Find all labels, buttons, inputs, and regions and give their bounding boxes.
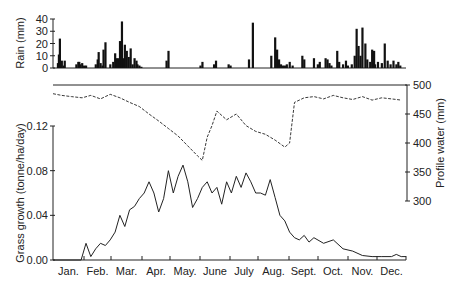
rain-bar [104,42,106,68]
rain-bar [95,64,97,68]
rain-panel: 010203040 [36,13,406,74]
rain-bar [167,51,169,68]
rain-bar [364,44,366,69]
rain-bar [345,61,347,68]
rain-tick-label: 0 [42,62,48,74]
rain-bar [276,50,278,68]
rain-bar [399,66,401,68]
rain-bar [317,64,319,68]
rain-bar [292,66,294,68]
rain-bar [59,39,61,68]
rain-bar [140,67,142,68]
rain-bar [354,56,356,68]
rain-bar [395,64,397,68]
rain-bar [381,63,383,68]
rain-bar [121,21,123,68]
rain-bar [357,46,359,68]
rain-bar [289,62,291,68]
rain-bar [270,56,272,68]
rain-bar [132,64,134,68]
rain-bar [109,64,111,68]
rain-bar [75,64,77,68]
rain-tick-label: 30 [36,25,48,37]
month-label: May. [173,265,196,277]
rain-bar [338,62,340,68]
month-label: Dec. [380,265,403,277]
grass-tick-label: 0.00 [27,254,48,266]
rain-bar [98,52,100,68]
rain-bar [336,51,338,68]
grass-tick-label: 0.12 [27,120,48,132]
rain-bar [369,62,371,68]
rain-bar [138,66,140,68]
rain-bar [165,61,167,68]
grass-growth-panel: 0.000.040.080.12 [27,120,406,266]
month-label: Sept. [291,265,317,277]
water-tick-label: 450 [413,108,431,120]
rain-bar [359,56,361,68]
rain-bar [83,66,85,68]
rain-bar [252,23,254,68]
month-label: Oct. [323,265,343,277]
rain-bar [215,61,217,68]
rain-bar [384,44,386,69]
water-tick-label: 500 [413,79,431,91]
rain-bar [115,58,117,68]
grass-tick-label: 0.04 [27,209,48,221]
rain-bar [374,64,376,68]
month-label: Mar. [116,265,137,277]
rain-bar [389,64,391,68]
month-label: Nov. [352,265,374,277]
rain-bar [342,64,344,68]
rain-bar [85,66,87,68]
rain-bar [126,51,128,68]
grass-tick-label: 0.08 [27,165,48,177]
rain-bar [319,62,321,68]
rain-bar [278,59,280,68]
rain-tick-label: 40 [36,13,48,25]
axes: Jan.Feb.Mar.Apr.May.JuneJulyAug.Sept.Oct… [58,256,406,277]
rain-bar [280,64,282,68]
month-label: Jan. [58,265,79,277]
rain-bar [356,29,358,68]
profile-water-line [53,94,401,161]
rain-bar [229,66,231,68]
rain-bar [301,56,303,68]
rain-bar [130,48,132,68]
rain-bar [102,50,104,68]
rain-bar [213,64,215,68]
rain-bar [284,66,286,68]
rain-bar [347,66,349,68]
rain-axis-label: Rain (mm) [14,17,26,68]
rain-bar [377,62,379,68]
rain-bar [119,41,121,68]
rain-bar [124,45,126,68]
water-axis-label: Profile water (mm) [434,98,446,188]
rain-bar [282,66,284,68]
rain-bar [112,62,114,68]
profile-water-panel: 300350400450500 [53,79,431,207]
grass-axis-label: Grass growth (tonne/ha/day) [14,123,26,262]
month-label: Apr. [146,265,166,277]
rain-bar [64,61,66,68]
rain-bar [328,63,330,68]
rain-bar [79,64,81,68]
rain-bar [199,66,201,68]
rain-bar [351,64,353,68]
rain-tick-label: 20 [36,38,48,50]
rain-bar [366,59,368,68]
rain-bar [392,61,394,68]
rain-bar [274,37,276,68]
rain-bar [303,59,305,68]
rain-bar [248,59,250,68]
rain-tick-label: 10 [36,50,48,62]
month-label: Aug. [262,265,285,277]
month-label: Feb. [86,265,108,277]
grass-growth-line [53,165,406,260]
rain-bar [228,64,230,68]
water-tick-label: 400 [413,137,431,149]
rain-bar [128,57,130,68]
rain-bar [100,63,102,68]
rain-bar [81,63,83,68]
month-label: June [203,265,227,277]
